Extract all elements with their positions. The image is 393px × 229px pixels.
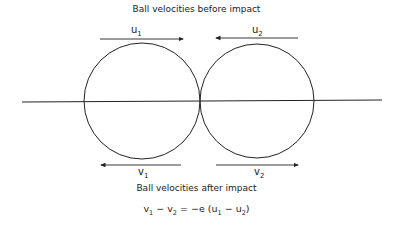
- horizontal-axis-line: [22, 100, 382, 102]
- collision-diagram: [0, 0, 393, 229]
- restitution-equation: v1 − v2 = −e (u1 − u2): [0, 203, 393, 217]
- v2-label: v2: [254, 166, 264, 180]
- u2-label: u2: [252, 24, 263, 38]
- title-after-impact: Ball velocities after impact: [0, 183, 393, 193]
- v1-label: v1: [138, 166, 148, 180]
- u1-label: u1: [131, 24, 142, 38]
